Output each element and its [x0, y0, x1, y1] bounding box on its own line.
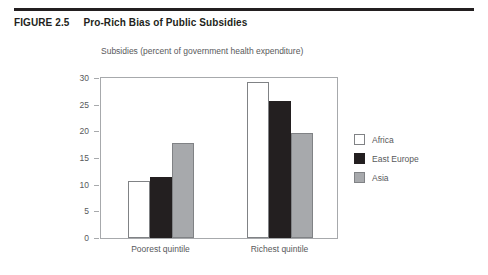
legend-item-east-europe: East Europe [354, 149, 419, 168]
bar-east-europe-0 [150, 177, 172, 238]
bar-africa-0 [128, 181, 150, 238]
bar-asia-0 [172, 143, 194, 238]
bar-east-europe-1 [269, 101, 291, 238]
x-axis-label: Poorest quintile [131, 244, 190, 254]
legend-label-africa: Africa [372, 135, 394, 145]
y-tick-mark [94, 185, 99, 186]
legend-item-asia: Asia [354, 168, 419, 187]
y-axis-title: Subsidies (percent of government health … [101, 46, 303, 56]
y-tick-mark [94, 158, 99, 159]
y-tick-mark [94, 238, 99, 239]
legend-swatch-asia [354, 172, 365, 183]
bar-africa-1 [247, 82, 269, 238]
legend-swatch-africa [354, 134, 365, 145]
x-axis-label: Richest quintile [251, 244, 309, 254]
y-tick-label: 30 [69, 73, 89, 83]
y-tick-label: 15 [69, 153, 89, 163]
y-tick-mark [94, 131, 99, 132]
y-tick-label: 25 [69, 100, 89, 110]
y-tick-label: 10 [69, 180, 89, 190]
legend-swatch-east-europe [354, 153, 365, 164]
y-tick-mark [94, 78, 99, 79]
legend-label-asia: Asia [372, 173, 389, 183]
y-tick-label: 20 [69, 126, 89, 136]
bar-asia-1 [291, 133, 313, 238]
legend-label-east-europe: East Europe [372, 154, 419, 164]
y-tick-label: 5 [69, 206, 89, 216]
y-tick-mark [94, 211, 99, 212]
legend-item-africa: Africa [354, 130, 419, 149]
bars-layer [101, 78, 337, 238]
y-tick-mark [94, 105, 99, 106]
bar-chart: Subsidies (percent of government health … [0, 0, 488, 275]
y-tick-label: 0 [69, 233, 89, 243]
chart-legend: Africa East Europe Asia [354, 130, 419, 187]
